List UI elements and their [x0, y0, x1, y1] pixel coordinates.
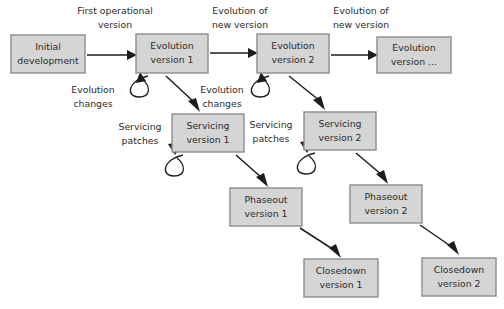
node-label-closedown-version-2-line2: version 2 — [438, 278, 481, 289]
node-label-servicing-version-2-line1: Servicing — [318, 118, 361, 129]
flowchart-svg: Initial development Evolution version 1 … — [0, 0, 504, 309]
edge-label-evolution-changes-2-line2: changes — [202, 98, 241, 109]
node-label-evolution-version-1-line2: version 1 — [151, 54, 194, 65]
edge-label-servicing-patches-1-line1: Servicing — [118, 121, 161, 132]
edge-evolution1-to-servicing1 — [166, 76, 200, 112]
edge-phaseout1-to-closedown1 — [300, 228, 341, 258]
edge-phaseout2-to-closedown2 — [420, 225, 459, 255]
edge-label-first-operational-version-line2: version — [98, 19, 132, 30]
node-phaseout-version-1[interactable]: Phaseout version 1 — [230, 188, 302, 226]
node-label-servicing-version-1-line2: version 1 — [187, 134, 230, 145]
edge-label-servicing-patches-2-line2: patches — [253, 133, 290, 144]
node-label-evolution-version-2-line1: Evolution — [271, 40, 314, 51]
node-label-closedown-version-2-line1: Closedown — [434, 264, 485, 275]
edge-label-evolution-changes-2: Evolution changes — [200, 84, 243, 109]
node-phaseout-version-2[interactable]: Phaseout version 2 — [350, 185, 422, 223]
edge-servicing1-to-phaseout1 — [236, 155, 268, 187]
edge-label-first-operational-version-line1: First operational — [77, 5, 152, 16]
edge-label-servicing-patches-2: Servicing patches — [249, 119, 292, 144]
node-closedown-version-2[interactable]: Closedown version 2 — [422, 258, 496, 296]
edge-label-evolution-changes-2-line1: Evolution — [200, 84, 243, 95]
diagram-canvas: Initial development Evolution version 1 … — [0, 0, 504, 309]
node-label-initial-development-line2: development — [17, 55, 79, 66]
node-label-phaseout-version-2-line1: Phaseout — [365, 191, 408, 202]
node-label-servicing-version-1-line1: Servicing — [186, 120, 229, 131]
edge-label-evolution-of-new-version-1-line1: Evolution of — [212, 5, 268, 16]
node-label-phaseout-version-1-line1: Phaseout — [245, 194, 288, 205]
edge-label-evolution-of-new-version-2-line2: new version — [333, 19, 389, 30]
edge-evolution2-to-servicing2 — [289, 76, 325, 110]
edge-label-evolution-changes-1-line1: Evolution — [71, 84, 114, 95]
edge-label-first-operational-version: First operational version — [77, 5, 152, 30]
edge-evolution2-to-evolutionN — [331, 50, 378, 60]
edge-label-evolution-of-new-version-1: Evolution of new version — [212, 5, 268, 30]
node-label-evolution-version-n-line1: Evolution — [392, 42, 435, 53]
node-servicing-version-1[interactable]: Servicing version 1 — [172, 114, 244, 152]
node-servicing-version-2[interactable]: Servicing version 2 — [304, 112, 376, 150]
loop-evolution1-changes — [130, 72, 148, 97]
node-label-initial-development-line1: Initial — [35, 41, 61, 52]
edge-evolution1-to-evolution2 — [210, 48, 258, 58]
node-label-phaseout-version-1-line2: version 1 — [245, 208, 288, 219]
node-layer: Initial development Evolution version 1 … — [11, 34, 496, 297]
node-label-phaseout-version-2-line2: version 2 — [365, 205, 408, 216]
edge-label-evolution-changes-1: Evolution changes — [71, 84, 114, 109]
edge-initial-to-evolution1 — [87, 50, 137, 60]
node-closedown-version-1[interactable]: Closedown version 1 — [304, 259, 378, 297]
node-evolution-version-1[interactable]: Evolution version 1 — [136, 34, 208, 73]
node-label-evolution-version-1-line1: Evolution — [150, 40, 193, 51]
edge-label-servicing-patches-1: Servicing patches — [118, 121, 161, 146]
node-label-closedown-version-1-line2: version 1 — [320, 279, 363, 290]
edge-label-evolution-of-new-version-1-line2: new version — [212, 19, 268, 30]
edge-label-servicing-patches-1-line2: patches — [122, 135, 159, 146]
node-label-evolution-version-n-line2: version ... — [391, 56, 437, 67]
node-initial-development[interactable]: Initial development — [11, 35, 85, 73]
node-evolution-version-n[interactable]: Evolution version ... — [377, 37, 451, 73]
edge-label-evolution-of-new-version-2: Evolution of new version — [333, 5, 389, 30]
node-label-evolution-version-2-line2: version 2 — [272, 54, 315, 65]
edge-label-evolution-of-new-version-2-line1: Evolution of — [333, 5, 389, 16]
node-evolution-version-2[interactable]: Evolution version 2 — [257, 34, 329, 73]
edge-servicing2-to-phaseout2 — [356, 153, 388, 184]
node-label-servicing-version-2-line2: version 2 — [319, 132, 362, 143]
loop-evolution2-changes — [251, 72, 269, 97]
edge-label-servicing-patches-2-line1: Servicing — [249, 119, 292, 130]
edge-label-evolution-changes-1-line2: changes — [73, 98, 112, 109]
node-label-closedown-version-1-line1: Closedown — [316, 265, 367, 276]
